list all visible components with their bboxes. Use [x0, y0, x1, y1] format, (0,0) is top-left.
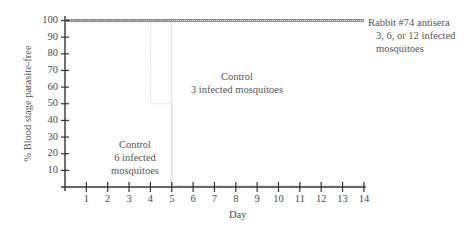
x-tick-label: 8 — [226, 193, 246, 205]
annotation-control-6: Control 6 infected mosquitoes — [95, 138, 175, 177]
x-axis-label: Day — [229, 209, 247, 221]
x-tick-label: 9 — [247, 193, 267, 205]
annotation-rabbit-line1: Rabbit #74 antisera — [368, 16, 455, 29]
annotation-control-6-line3: mosquitoes — [95, 164, 175, 177]
annotation-rabbit-line3: mosquitoes — [368, 42, 455, 55]
annotation-control-3-line2: 3 infected mosquitoes — [182, 83, 292, 96]
annotation-control-6-line2: 6 infected — [95, 151, 175, 164]
x-tick-label: 3 — [119, 193, 139, 205]
y-tick-label: 100 — [30, 14, 58, 26]
y-tick-label: 70 — [30, 64, 58, 76]
x-tick-label: 11 — [290, 193, 310, 205]
x-tick-label: 5 — [162, 193, 182, 205]
y-tick-label: 80 — [30, 47, 58, 59]
x-tick-label: 14 — [354, 193, 374, 205]
x-tick-label: 1 — [76, 193, 96, 205]
annotation-control-3-line1: Control — [182, 70, 292, 83]
chart-container: % Blood stage parasite-free 100908070605… — [0, 0, 471, 230]
y-tick-label: 60 — [30, 81, 58, 93]
x-tick-label: 13 — [333, 193, 353, 205]
y-tick-label: 30 — [30, 131, 58, 143]
y-tick-label: 10 — [30, 164, 58, 176]
annotation-rabbit-line2: 3, 6, or 12 infected — [368, 29, 455, 42]
x-tick-label: 2 — [98, 193, 118, 205]
x-tick-label: 7 — [204, 193, 224, 205]
annotation-control-3: Control 3 infected mosquitoes — [182, 70, 292, 96]
y-tick-label: 20 — [30, 147, 58, 159]
x-tick-label: 6 — [183, 193, 203, 205]
x-tick-label: 4 — [140, 193, 160, 205]
annotation-rabbit: Rabbit #74 antisera 3, 6, or 12 infected… — [368, 16, 455, 55]
y-tick-label: 90 — [30, 31, 58, 43]
annotation-control-6-line1: Control — [95, 138, 175, 151]
x-tick-label: 10 — [269, 193, 289, 205]
y-tick-label: 40 — [30, 114, 58, 126]
x-tick-label: 12 — [311, 193, 331, 205]
y-tick-label: 50 — [30, 97, 58, 109]
